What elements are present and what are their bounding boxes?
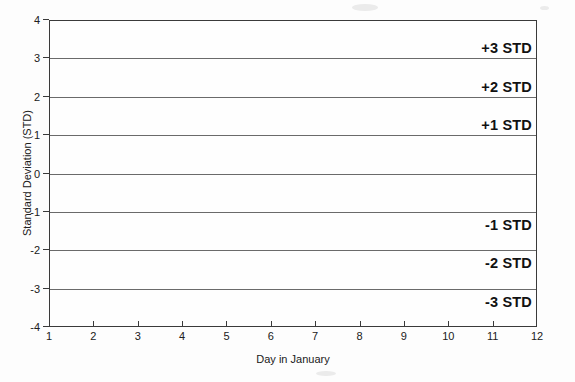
y-axis-tick-label: -3 bbox=[14, 284, 40, 295]
scan-speckle bbox=[352, 4, 378, 11]
gridline bbox=[50, 97, 536, 98]
scan-speckle bbox=[316, 371, 336, 376]
x-axis-tick-label: 9 bbox=[384, 331, 424, 342]
gridline bbox=[50, 289, 536, 290]
std-annotation-label: -2 STD bbox=[485, 256, 532, 271]
x-axis-tick-label: 5 bbox=[206, 331, 246, 342]
y-axis-tick bbox=[43, 326, 49, 327]
std-annotation-label: +1 STD bbox=[481, 118, 532, 133]
y-axis-tick bbox=[43, 57, 49, 58]
x-axis-tick bbox=[271, 321, 272, 327]
y-axis-tick bbox=[43, 134, 49, 135]
std-annotation-label: -1 STD bbox=[485, 218, 532, 233]
plot-area: +3 STD+2 STD+1 STD-1 STD-2 STD-3 STD bbox=[49, 20, 537, 327]
std-annotation-label: +3 STD bbox=[481, 41, 532, 56]
scan-speckle bbox=[540, 6, 549, 10]
std-annotation-label: -3 STD bbox=[485, 295, 532, 310]
x-axis-tick-label: 12 bbox=[517, 331, 557, 342]
y-axis-tick bbox=[43, 96, 49, 97]
x-axis-tick bbox=[315, 321, 316, 327]
gridline bbox=[50, 250, 536, 251]
y-axis-title: Standard Deviation (STD) bbox=[21, 83, 33, 263]
x-axis-title: Day in January bbox=[49, 353, 537, 365]
x-axis-tick bbox=[138, 321, 139, 327]
gridline bbox=[50, 212, 536, 213]
gridline bbox=[50, 58, 536, 59]
x-axis-tick-label: 4 bbox=[162, 331, 202, 342]
x-axis-tick-label: 6 bbox=[251, 331, 291, 342]
y-axis-tick bbox=[43, 211, 49, 212]
x-axis-tick-label: 2 bbox=[73, 331, 113, 342]
y-axis-tick bbox=[43, 288, 49, 289]
gridline bbox=[50, 135, 536, 136]
x-axis-tick-label: 8 bbox=[340, 331, 380, 342]
std-annotation-label: +2 STD bbox=[481, 80, 532, 95]
x-axis-tick-label: 10 bbox=[428, 331, 468, 342]
x-axis-tick-label: 7 bbox=[295, 331, 335, 342]
x-axis-tick bbox=[226, 321, 227, 327]
x-axis-tick-label: 1 bbox=[29, 331, 69, 342]
y-axis-tick bbox=[43, 173, 49, 174]
x-axis-tick bbox=[448, 321, 449, 327]
y-axis-tick bbox=[43, 249, 49, 250]
x-axis-tick bbox=[93, 321, 94, 327]
x-axis-tick bbox=[493, 321, 494, 327]
x-axis-tick bbox=[360, 321, 361, 327]
gridline bbox=[50, 174, 536, 175]
y-axis-tick-label: 3 bbox=[14, 53, 40, 64]
y-axis-tick-label: 4 bbox=[14, 15, 40, 26]
y-axis-tick bbox=[43, 19, 49, 20]
chart-figure: +3 STD+2 STD+1 STD-1 STD-2 STD-3 STD 432… bbox=[0, 0, 575, 382]
x-axis-tick bbox=[182, 321, 183, 327]
x-axis-tick-label: 11 bbox=[473, 331, 513, 342]
x-axis-tick-label: 3 bbox=[118, 331, 158, 342]
x-axis-tick bbox=[404, 321, 405, 327]
